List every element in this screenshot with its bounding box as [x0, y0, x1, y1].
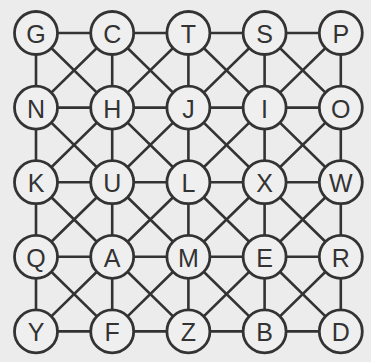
node-letter: P [332, 20, 349, 48]
node-letter: T [181, 20, 196, 48]
node-letter: O [331, 95, 350, 123]
node-letter: S [256, 20, 273, 48]
node-letter: N [27, 95, 45, 123]
node-letter: Y [28, 318, 45, 346]
node-letter: D [332, 318, 350, 346]
letter-node: D [319, 310, 362, 353]
letter-node: S [243, 12, 286, 55]
letter-node: G [15, 12, 58, 55]
node-letter: G [26, 20, 45, 48]
node-letter: E [256, 244, 273, 272]
letter-node: H [91, 86, 134, 129]
node-letter: A [104, 244, 121, 272]
node-letter: Z [181, 318, 196, 346]
letter-node: Y [15, 310, 58, 353]
letter-node: U [91, 161, 134, 204]
node-letter: I [261, 95, 268, 123]
letter-node: I [243, 86, 286, 129]
node-letter: M [178, 244, 199, 272]
node-letter: F [105, 318, 120, 346]
node-letter: L [181, 169, 195, 197]
letter-node: K [15, 161, 58, 204]
letter-node: E [243, 235, 286, 278]
node-letter: X [256, 169, 273, 197]
node-letter: Q [26, 244, 45, 272]
letter-node: R [319, 235, 362, 278]
node-letter: H [103, 95, 121, 123]
node-letter: B [256, 318, 273, 346]
letter-node: C [91, 12, 134, 55]
letter-node: N [15, 86, 58, 129]
letter-node: X [243, 161, 286, 204]
letter-node: P [319, 12, 362, 55]
node-letter: C [103, 20, 121, 48]
letter-node: Q [15, 235, 58, 278]
letter-grid-canvas: GCTSPNHJIOKULXWQAMERYFZBD [0, 0, 371, 362]
node-letter: U [103, 169, 121, 197]
letter-node: Z [167, 310, 210, 353]
node-letter: K [28, 169, 45, 197]
node-letter: W [329, 169, 353, 197]
letter-node: M [167, 235, 210, 278]
node-letter: J [182, 95, 195, 123]
letter-node: W [319, 161, 362, 204]
letter-node: T [167, 12, 210, 55]
letter-node: F [91, 310, 134, 353]
letter-node: O [319, 86, 362, 129]
letter-node: A [91, 235, 134, 278]
node-letter: R [332, 244, 350, 272]
letter-node: B [243, 310, 286, 353]
letter-node: L [167, 161, 210, 204]
letter-node: J [167, 86, 210, 129]
letter-grid-diagram: GCTSPNHJIOKULXWQAMERYFZBD [0, 0, 371, 362]
